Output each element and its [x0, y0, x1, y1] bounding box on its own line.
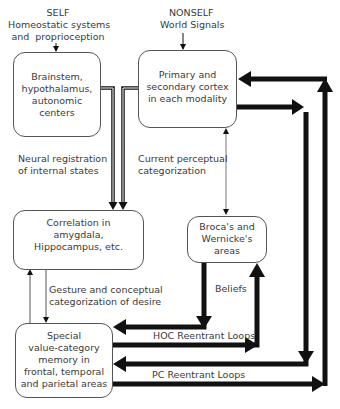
- node-text-line: Wernicke's: [199, 233, 255, 245]
- brainstem-to-correlation-arrow: [101, 88, 118, 210]
- node-text-line: autonomic: [22, 95, 93, 107]
- nonself-header: NONSELF World Signals: [160, 7, 224, 31]
- node-text-line: value-category: [21, 342, 107, 354]
- cortex-node: Primary and secondary cortex in each mod…: [138, 50, 237, 128]
- beliefs-label: Beliefs: [215, 283, 247, 295]
- node-text-line: Primary and: [146, 69, 228, 81]
- brainstem-node: Brainstem, hypothalamus, autonomic cente…: [13, 52, 101, 137]
- node-text-line: Correlation in: [34, 217, 123, 229]
- label-line: Gesture and conceptual: [49, 284, 163, 296]
- neural-registration-label: Neural registration of internal states: [18, 153, 107, 177]
- label-line: categorization: [138, 165, 228, 177]
- hoc-reentrant-loops-label: HOC Reentrant Loops: [153, 330, 255, 342]
- correlation-node: Correlation in amygdala, Hippocampus, et…: [13, 210, 144, 270]
- label-line: of internal states: [18, 165, 107, 177]
- node-text-line: and parietal areas: [21, 378, 107, 390]
- nonself-line1: World Signals: [160, 19, 224, 31]
- node-text-line: Hippocampus, etc.: [34, 241, 123, 253]
- label-line: categorization of desire: [49, 296, 163, 308]
- self-line2: and proprioception: [8, 31, 108, 43]
- diagram-canvas: SELF Homeostatic systems and propriocept…: [0, 0, 340, 409]
- current-perceptual-label: Current perceptual categorization: [138, 153, 228, 177]
- cortex-to-correlation-arrow: [119, 88, 139, 210]
- node-text-line: Broca's and: [199, 221, 255, 233]
- memory-to-correlation-arrow: [27, 269, 33, 328]
- node-text-line: frontal, temporal: [21, 366, 107, 378]
- self-title: SELF: [8, 7, 108, 19]
- node-text-line: secondary cortex: [146, 81, 228, 93]
- pc-reentrant-loops-label: PC Reentrant Loops: [152, 369, 245, 381]
- node-text-line: Special: [21, 330, 107, 342]
- node-text-line: in each modality: [146, 93, 228, 105]
- self-header: SELF Homeostatic systems and propriocept…: [8, 7, 108, 43]
- gesture-label: Gesture and conceptual categorization of…: [49, 284, 163, 308]
- label-line: Neural registration: [18, 153, 107, 165]
- nonself-title: NONSELF: [160, 7, 224, 19]
- self-line1: Homeostatic systems: [8, 19, 108, 31]
- value-category-memory-node: Special value-category memory in frontal…: [15, 323, 113, 398]
- node-text-line: centers: [22, 107, 93, 119]
- node-text-line: hypothalamus,: [22, 83, 93, 95]
- node-text-line: areas: [199, 245, 255, 257]
- broca-wernicke-node: Broca's and Wernicke's areas: [187, 216, 267, 263]
- node-text-line: amygdala,: [34, 229, 123, 241]
- node-text-line: Brainstem,: [22, 71, 93, 83]
- label-line: Current perceptual: [138, 153, 228, 165]
- node-text-line: memory in: [21, 354, 107, 366]
